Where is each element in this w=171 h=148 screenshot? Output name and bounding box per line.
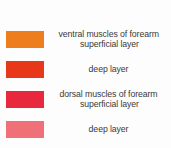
- legend-label-line-2: superficial layer: [79, 39, 138, 50]
- legend-label-cell: ventral muscles of forearm superficial l…: [50, 29, 171, 50]
- legend-label-cell: deep layer: [50, 64, 171, 75]
- color-swatch-icon: [6, 121, 44, 138]
- legend-row: dorsal muscles of forearm superficial la…: [0, 84, 171, 114]
- legend-swatch-cell: [0, 91, 50, 108]
- legend-swatch-cell: [0, 31, 50, 48]
- legend-label-line-1: deep layer: [89, 64, 129, 75]
- legend-label-line-2: superficial layer: [79, 99, 138, 110]
- legend-row: ventral muscles of forearm superficial l…: [0, 24, 171, 54]
- legend-label-line-1: ventral muscles of forearm: [59, 29, 159, 40]
- legend-row: deep layer: [0, 54, 171, 84]
- legend-swatch-cell: [0, 121, 50, 138]
- legend-swatch-cell: [0, 61, 50, 78]
- legend-label-cell: dorsal muscles of forearm superficial la…: [50, 89, 171, 110]
- legend-panel: ventral muscles of forearm superficial l…: [0, 0, 171, 148]
- color-swatch-icon: [6, 61, 44, 78]
- legend-label-cell: deep layer: [50, 124, 171, 135]
- legend-label-line-1: deep layer: [89, 124, 129, 135]
- legend-label-line-1: dorsal muscles of forearm: [60, 89, 158, 100]
- legend-row: deep layer: [0, 114, 171, 144]
- color-swatch-icon: [6, 91, 44, 108]
- color-swatch-icon: [6, 31, 44, 48]
